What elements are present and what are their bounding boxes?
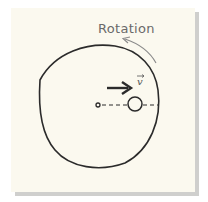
rotation-label: Rotation	[98, 21, 155, 36]
velocity-label: v	[137, 76, 143, 87]
center-point	[96, 103, 100, 107]
velocity-arrow-icon	[107, 82, 131, 94]
ball	[128, 97, 142, 111]
